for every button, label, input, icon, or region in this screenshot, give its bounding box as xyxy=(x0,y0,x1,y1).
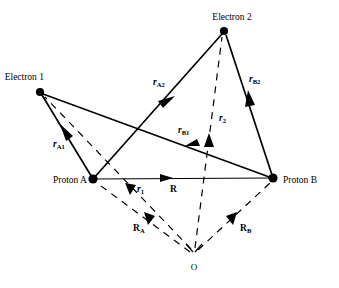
vector-rB2 xyxy=(226,35,273,178)
electron1-dot xyxy=(36,88,44,96)
vector-rB2-label: rB2 xyxy=(249,74,261,85)
vector-rA1-label: rA1 xyxy=(53,139,65,150)
protonB-label: Proton B xyxy=(283,175,317,185)
vector-R-shaft xyxy=(93,178,272,179)
vector-rB2-shaft xyxy=(226,35,273,178)
dashed-vector-group xyxy=(45,37,270,252)
electron1-label: Electron 1 xyxy=(5,72,45,82)
vector-R xyxy=(93,174,272,182)
vector-rA1-arrowhead xyxy=(60,124,73,141)
vector-r1-label: r1 xyxy=(137,184,144,195)
vector-rA2-label: rA2 xyxy=(153,77,165,88)
vector-RA-label: RA xyxy=(133,223,145,234)
solid-vector-group xyxy=(42,34,273,182)
vector-label-group: rA1 rA2 rB1 rB2 R r1 r2 RA RB xyxy=(53,74,261,234)
vector-rB1-label: rB1 xyxy=(178,125,189,136)
node-label-group: Electron 1 Electron 2 Proton A Proton B … xyxy=(5,12,317,272)
protonA-label: Proton A xyxy=(53,175,87,185)
vector-rA2 xyxy=(93,34,222,179)
vector-r1 xyxy=(45,97,191,249)
vector-rA2-shaft xyxy=(93,34,222,179)
electron2-dot xyxy=(220,27,228,35)
vector-rA1 xyxy=(42,95,93,179)
origin-tick-left xyxy=(186,244,193,252)
vector-rA2-arrowhead xyxy=(158,96,175,108)
vector-R-arrowhead xyxy=(160,174,173,182)
vector-r2 xyxy=(195,37,222,248)
electron2-label: Electron 2 xyxy=(212,12,252,22)
vector-RB xyxy=(198,183,270,250)
vector-R-label: R xyxy=(170,184,177,194)
hydrogen-molecule-diagram: Electron 1 Electron 2 Proton A Proton B … xyxy=(0,0,339,288)
protonB-dot xyxy=(268,173,277,182)
protonA-dot xyxy=(88,174,97,183)
vector-r1-arrowhead xyxy=(125,183,136,195)
vector-r1-shaft xyxy=(45,97,191,249)
vector-RB-label: RB xyxy=(240,223,252,234)
vector-rB2-arrowhead xyxy=(245,90,255,107)
vector-rB1-arrowhead xyxy=(185,139,200,146)
diagram-canvas: Electron 1 Electron 2 Proton A Proton B … xyxy=(0,0,339,288)
vector-r2-arrowhead xyxy=(204,133,214,147)
vector-r2-label: r2 xyxy=(219,113,227,124)
origin-label: O xyxy=(191,262,198,272)
